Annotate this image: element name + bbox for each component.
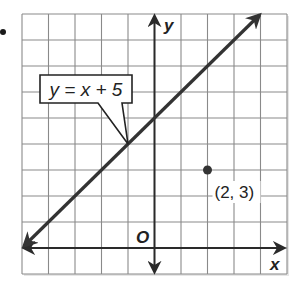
point-2-3 <box>203 166 212 175</box>
x-axis-label: x <box>269 255 281 274</box>
y-axis-label: y <box>163 16 175 35</box>
coordinate-graph: (2, 3) y = x + 5 y x O <box>0 0 296 287</box>
callout-equation-label: y = x + 5 <box>48 79 123 100</box>
origin-label: O <box>136 228 149 247</box>
point-label: (2, 3) <box>215 183 255 202</box>
